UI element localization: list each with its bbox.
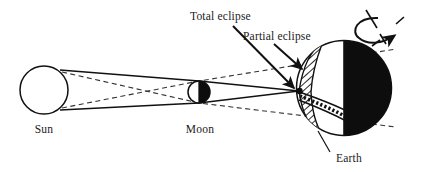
sun-outline <box>20 66 68 114</box>
partial-eclipse-label: Partial eclipse <box>243 30 311 43</box>
umbra-ray-upper <box>60 70 299 91</box>
earth-body <box>296 41 391 136</box>
earth-leader-line <box>318 131 330 152</box>
eclipse-diagram: Total eclipse Partial eclipse Sun Moon E… <box>0 0 421 172</box>
total-eclipse-label: Total eclipse <box>190 10 251 23</box>
moon-label: Moon <box>186 123 214 135</box>
eclipse-diagram-canvas: Total eclipse Partial eclipse Sun Moon E… <box>0 0 421 172</box>
sun-body <box>20 66 68 114</box>
rotation-axis-tick-right <box>396 17 404 24</box>
umbra-rays <box>60 70 299 110</box>
earth-night-side <box>344 41 392 136</box>
sun-label: Sun <box>35 123 54 135</box>
umbra-contact-point <box>296 88 302 94</box>
earth-rotation-indicator <box>355 10 404 46</box>
umbra-ray-lower <box>60 91 299 110</box>
rotation-arrow <box>355 18 394 43</box>
moon-body <box>188 81 210 103</box>
partial-eclipse-arrow <box>274 44 302 69</box>
earth-label: Earth <box>336 152 362 164</box>
moon-dark-side <box>199 81 210 103</box>
